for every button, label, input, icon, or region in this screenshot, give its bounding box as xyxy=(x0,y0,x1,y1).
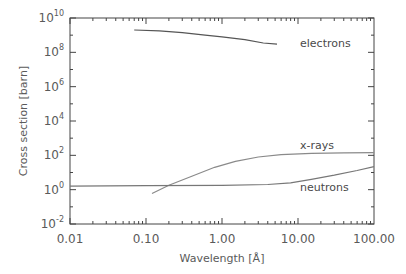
y-tick-label: 108 xyxy=(44,43,64,59)
xrays-label: x-rays xyxy=(300,139,334,152)
x-tick-label: 10.00 xyxy=(281,232,315,246)
neutrons-label: neutrons xyxy=(300,181,349,194)
cross-section-chart: 0.010.101.0010.00100.00 1010108106104102… xyxy=(0,0,406,274)
y-tick-label: 106 xyxy=(44,78,64,94)
x-axis: 0.010.101.0010.00100.00 xyxy=(57,18,395,246)
y-tick-label: 10-2 xyxy=(41,215,64,231)
x-tick-label: 1.00 xyxy=(209,232,236,246)
electrons-curve xyxy=(134,30,277,44)
y-tick-label: 100 xyxy=(44,181,64,197)
y-axis-title: Cross section [barn] xyxy=(17,66,30,176)
x-tick-label: 100.00 xyxy=(353,232,395,246)
y-tick-label: 1010 xyxy=(39,9,64,25)
plot-series xyxy=(70,30,374,194)
x-axis-title: Wavelength [Å] xyxy=(180,252,265,265)
x-tick-label: 0.01 xyxy=(57,232,84,246)
x-tick-label: 0.10 xyxy=(133,232,160,246)
y-tick-label: 102 xyxy=(44,146,64,162)
electrons-label: electrons xyxy=(300,37,351,50)
y-tick-label: 104 xyxy=(44,112,64,128)
